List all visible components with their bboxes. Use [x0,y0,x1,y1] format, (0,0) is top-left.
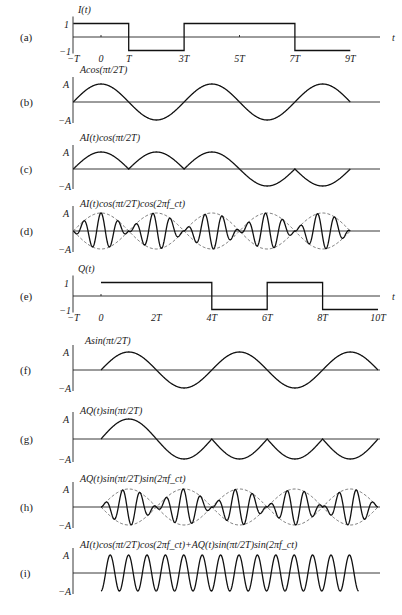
tick-label: 8T [317,312,329,323]
y-label-top: A [62,484,70,495]
panel-c: (c)A−AAI(t)cos(πt/2T) [20,132,380,192]
panel-tag: (h) [20,501,33,514]
tick-label: 6T [262,312,274,323]
panel-d: (d)A−AAI(t)cos(πt/2T)cos(2πf_ct) [20,198,380,255]
panel-tag: (i) [20,567,31,580]
tick-label: 0 [99,312,104,323]
panel-tag: (a) [20,31,33,44]
panel-title: Acos(πt/2T) [79,64,128,76]
panel-title: AI(t)cos(πt/2T) [79,132,141,144]
tick-label: 7T [290,53,302,64]
panel-tag: (e) [20,290,33,303]
y-label-bottom: −A [58,181,72,192]
panel-tag: (g) [20,433,33,446]
panel-tag: (c) [20,163,33,176]
panel-title: AQ(t)sin(πt/2T) [79,405,143,417]
tick-label: 2T [151,312,163,323]
panel-title: AI(t)cos(πt/2T)cos(2πf_ct) [79,198,186,210]
panel-tag: (d) [20,225,33,238]
y-label-bottom: −A [58,520,72,531]
tick-label: 10T [370,312,387,323]
y-label-top: A [62,550,70,561]
y-label-top: A [62,147,70,158]
panel-g: (g)A−AAQ(t)sin(πt/2T) [20,405,380,465]
msk-waveform-figure: (a)1−1I(t)t−T0T3T5T7T9T(b)A−AAcos(πt/2T)… [0,0,402,615]
axis-label-t: t [392,32,395,43]
tick-label: T [126,53,133,64]
panel-b: (b)A−AAcos(πt/2T) [20,64,380,126]
panel-i: (i)A−AAI(t)cos(πt/2T)cos(2πf_ct)+AQ(t)si… [20,539,380,597]
tick-label: −T [67,312,81,323]
y-label-top: A [62,347,70,358]
y-label-top: 1 [64,278,69,289]
tick-label: −T [67,53,81,64]
panel-e: (e)1−1Q(t)t−T02T4T6T8T10T [20,263,395,323]
y-label-bottom: −A [58,115,72,126]
tick-label: 9T [345,53,357,64]
panel-a: (a)1−1I(t)t−T0T3T5T7T9T [20,4,395,64]
panel-title: Q(t) [78,263,95,275]
axis-label-t: t [392,291,395,302]
tick-label: 0 [99,53,104,64]
y-label-bottom: −A [58,383,72,394]
tick-label: 4T [207,312,219,323]
y-label-top: A [62,414,70,425]
panel-title: AI(t)cos(πt/2T)cos(2πf_ct)+AQ(t)sin(πt/2… [79,539,298,551]
panel-title: Asin(πt/2T) [84,335,131,347]
panel-title: AQ(t)sin(πt/2T)sin(2πf_ct) [79,473,186,485]
panel-tag: (b) [20,96,33,109]
panel-title: I(t) [77,4,91,16]
y-label-top: 1 [64,19,69,30]
panel-tag: (f) [20,364,31,377]
panel-f: (f)A−AAsin(πt/2T) [20,335,380,394]
panel-h: (h)A−AAQ(t)sin(πt/2T)sin(2πf_ct) [20,473,380,531]
y-label-bottom: −A [58,244,72,255]
y-label-bottom: −A [58,586,72,597]
y-label-top: A [62,79,70,90]
tick-label: 3T [178,53,191,64]
y-label-top: A [62,208,70,219]
y-label-bottom: −A [58,454,72,465]
tick-label: 5T [234,53,246,64]
